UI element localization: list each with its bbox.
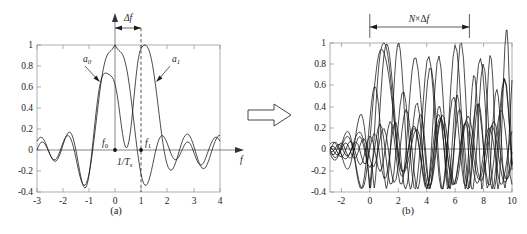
panel-a-ytick-08: 0.8 — [21, 61, 33, 71]
panel-a-delta-f-span — [115, 26, 141, 31]
panel-b-curves — [330, 30, 512, 189]
panel-b-caption: (b) — [288, 205, 527, 216]
panel-a-axes-box — [37, 45, 220, 192]
panel-a-caption: (a) — [0, 205, 232, 216]
panel-a-y-ticks — [37, 45, 41, 192]
panel-a-x-ticks — [37, 45, 220, 192]
panel-a-label-a0-group: a0 — [83, 54, 100, 82]
panel-a-marker-f0 — [113, 148, 117, 152]
panel-a-vertical-axis — [112, 13, 118, 150]
panel-b-ytick-02: 0.2 — [314, 123, 326, 133]
panel-a-ytick-04: 0.4 — [21, 103, 33, 113]
panel-b-ytick-04: 0.4 — [314, 102, 326, 112]
panel-b-ytick-08: 0.8 — [314, 59, 326, 69]
panel-b-ytick-1: 1 — [321, 38, 326, 48]
panel-b-ytick-06: 0.6 — [314, 80, 326, 90]
panel-b-ytick-m02: -0.2 — [311, 166, 326, 176]
panel-a-plot: 1 0.8 0.6 0.4 0.2 0 -0.2 -0.4 -3 -2 -1 0… — [0, 0, 264, 210]
panel-a-ytick-m02: -0.2 — [18, 166, 33, 176]
panel-a: 1 0.8 0.6 0.4 0.2 0 -0.2 -0.4 -3 -2 -1 0… — [0, 0, 264, 234]
panel-a-marker-f1 — [139, 148, 143, 152]
panel-b-span-annotation: N×Δf — [370, 14, 470, 38]
panel-a-label-f1: f1 — [145, 138, 151, 149]
panel-b: 1 0.8 0.6 0.4 0.2 0 -0.2 -0.4 -2 0 2 4 6… — [264, 0, 527, 234]
panel-a-label-a1: a1 — [172, 54, 180, 65]
panel-a-label-a1-group: a1 — [156, 54, 180, 82]
panel-a-ytick-m04: -0.4 — [18, 187, 33, 197]
panel-a-label-spacing: 1/Ts — [117, 157, 133, 168]
panel-a-label-a0: a0 — [83, 54, 92, 65]
panel-a-label-delta-f: Δf — [123, 13, 134, 23]
panel-b-y-ticks — [330, 43, 334, 192]
panel-a-ytick-1: 1 — [28, 40, 33, 50]
panel-a-label-f0: f0 — [102, 138, 109, 149]
panel-b-label-n-delta-f: N×Δf — [408, 14, 431, 24]
panel-a-axis-symbol-f: f — [240, 155, 244, 165]
panel-a-ytick-02: 0.2 — [21, 124, 33, 134]
panel-b-ytick-0: 0 — [321, 144, 326, 154]
panel-b-plot: 1 0.8 0.6 0.4 0.2 0 -0.2 -0.4 -2 0 2 4 6… — [264, 0, 527, 210]
panel-a-ytick-0: 0 — [28, 145, 33, 155]
panel-b-ytick-m04: -0.4 — [311, 187, 326, 197]
figure-root: 1 0.8 0.6 0.4 0.2 0 -0.2 -0.4 -3 -2 -1 0… — [0, 0, 527, 234]
panel-a-ytick-06: 0.6 — [21, 82, 33, 92]
